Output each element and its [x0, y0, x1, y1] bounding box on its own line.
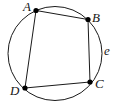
vertex-label-b: B — [92, 11, 100, 24]
geometry-figure: A B C D e — [0, 0, 124, 109]
vertex-label-d: D — [10, 84, 19, 97]
edge-ab — [36, 11, 88, 20]
vertex-label-c: C — [95, 77, 104, 90]
vertex-label-a: A — [23, 0, 31, 13]
edge-cd — [25, 82, 90, 88]
vertex-point-c — [87, 79, 92, 84]
edge-da — [25, 11, 36, 89]
vertex-point-a — [33, 8, 38, 13]
vertex-point-d — [22, 85, 27, 90]
vertex-point-b — [85, 17, 90, 22]
circle-label-e: e — [104, 44, 110, 57]
edge-bc — [88, 20, 90, 83]
